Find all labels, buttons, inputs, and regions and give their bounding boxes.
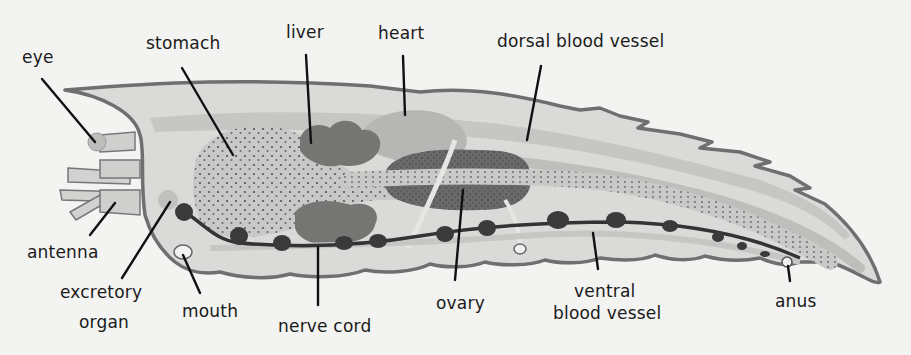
label-nerve-cord: nerve cord [278, 318, 371, 335]
label-mouth: mouth [182, 303, 238, 320]
label-eye: eye [22, 49, 54, 66]
anatomy-diagram: eye stomach liver heart dorsal blood ves… [0, 0, 911, 355]
label-ovary: ovary [436, 295, 485, 312]
genital-pore [514, 244, 526, 254]
label-liver: liver [286, 24, 324, 41]
label-excretory-organ-line1: excretory [60, 284, 142, 301]
label-heart: heart [378, 25, 424, 42]
label-stomach: stomach [146, 35, 220, 52]
label-dorsal-blood-vessel: dorsal blood vessel [497, 33, 664, 50]
label-ventral-blood-vessel-line1: ventral [574, 283, 636, 300]
label-excretory-organ-line2: organ [79, 314, 129, 331]
label-anus: anus [775, 293, 817, 310]
label-antenna: antenna [27, 244, 99, 261]
label-ventral-blood-vessel-line2: blood vessel [553, 305, 661, 322]
